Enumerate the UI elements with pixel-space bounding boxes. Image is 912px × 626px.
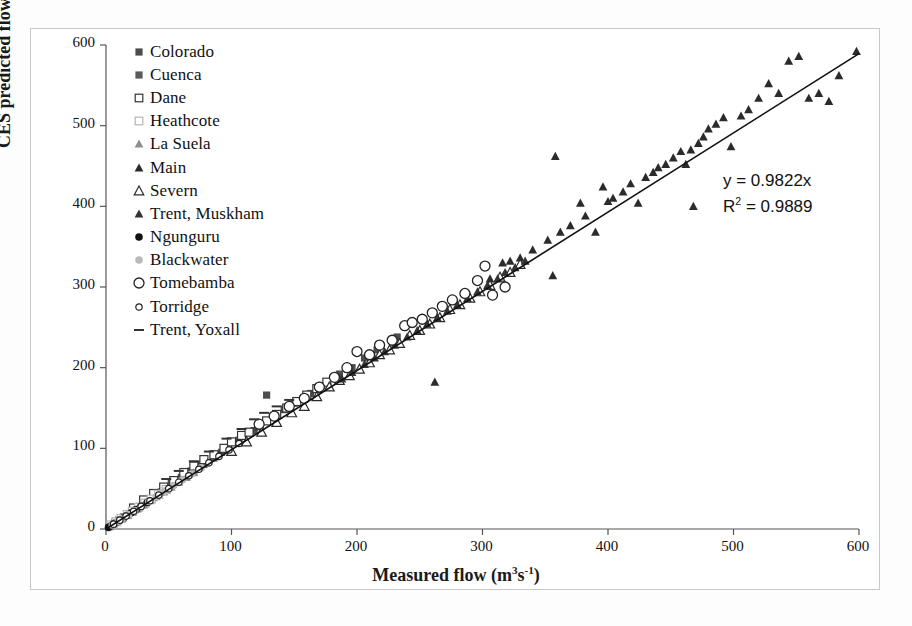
data-point (135, 117, 143, 125)
data-point (686, 145, 695, 153)
data-point (719, 113, 728, 121)
data-point (342, 363, 352, 373)
r-squared-base: R (723, 197, 735, 216)
y-tick-label: 0 (35, 518, 95, 535)
legend-item-cuenca[interactable]: Cuenca (128, 63, 264, 86)
legend-item-dane[interactable]: Dane (128, 86, 264, 109)
data-point (387, 335, 397, 345)
data-point (460, 288, 470, 298)
data-point (619, 187, 628, 195)
data-point (136, 303, 142, 309)
data-point (417, 314, 427, 324)
data-point (528, 245, 537, 253)
y-axis-title: CES predicted flow (m3 s-1) (0, 0, 15, 148)
y-tick-label: 600 (35, 34, 95, 51)
chart-legend: ColoradoCuencaDaneHeathcoteLa SuelaMainS… (128, 40, 264, 341)
x-tick-label: 100 (201, 538, 261, 555)
legend-label: Torridge (150, 297, 209, 317)
open-circle-small-icon (128, 298, 150, 316)
filled-triangle-icon (128, 159, 150, 177)
legend-label: Trent, Yoxall (150, 320, 240, 340)
data-point (263, 391, 270, 398)
data-point (794, 52, 803, 60)
data-point (352, 347, 362, 357)
data-point (641, 173, 650, 181)
data-point (654, 163, 663, 171)
data-point (581, 211, 590, 219)
legend-item-tomebamba[interactable]: Tomebamba (128, 272, 264, 295)
data-point (669, 153, 678, 161)
legend-item-severn[interactable]: Severn (128, 179, 264, 202)
regression-annotation: y = 0.9822x R2 = 0.9889 (723, 168, 813, 221)
data-point (437, 301, 447, 311)
legend-item-main[interactable]: Main (128, 156, 264, 179)
filled-triangle-icon (128, 205, 150, 223)
data-point (134, 186, 144, 195)
filled-triangle-icon (128, 135, 150, 153)
data-point (135, 209, 144, 217)
filled-square-icon (128, 43, 150, 61)
data-point (804, 94, 813, 102)
y-tick-label: 200 (35, 357, 95, 374)
open-circle-large-icon (128, 274, 150, 292)
legend-label: Main (150, 158, 186, 178)
data-point (480, 261, 490, 271)
legend-label: Ngunguru (150, 227, 220, 247)
legend-item-torridge[interactable]: Torridge (128, 295, 264, 318)
legend-label: Dane (150, 88, 186, 108)
data-point (365, 350, 375, 360)
legend-item-ngunguru[interactable]: Ngunguru (128, 226, 264, 249)
x-tick-label: 600 (828, 538, 888, 555)
data-point (548, 271, 557, 279)
equation-text: y = 0.9822x (723, 168, 813, 194)
data-point (744, 105, 753, 113)
data-point (447, 295, 457, 305)
legend-label: Tomebamba (150, 273, 235, 293)
data-point (566, 221, 575, 229)
r-squared-value: = 0.9889 (746, 197, 813, 216)
data-point (704, 124, 713, 132)
data-point (727, 142, 736, 150)
legend-item-heathcote[interactable]: Heathcote (128, 110, 264, 133)
r-squared-text: R2 = 0.9889 (723, 194, 813, 220)
data-point (135, 256, 143, 264)
data-point (488, 290, 498, 300)
data-point (676, 147, 685, 155)
legend-item-trent-muskham[interactable]: Trent, Muskham (128, 202, 264, 225)
legend-item-blackwater[interactable]: Blackwater (128, 249, 264, 272)
data-point (135, 71, 142, 78)
data-point (506, 257, 515, 265)
data-point (427, 308, 437, 318)
data-point (689, 202, 698, 210)
data-point (135, 140, 144, 148)
data-point (329, 372, 339, 382)
data-point (609, 194, 618, 202)
data-point (835, 71, 844, 79)
data-point (135, 48, 142, 55)
data-point (556, 228, 565, 236)
legend-item-trent-yoxall[interactable]: Trent, Yoxall (128, 318, 264, 341)
figure-scatter-plot: 01002003004005006000100200300400500600 C… (0, 0, 912, 626)
data-point (238, 431, 246, 439)
data-point (774, 89, 783, 97)
data-point (712, 119, 721, 127)
y-tick-label: 100 (35, 437, 95, 454)
legend-item-la-suela[interactable]: La Suela (128, 133, 264, 156)
data-point (814, 89, 823, 97)
legend-label: Trent, Muskham (150, 204, 264, 224)
data-point (498, 258, 507, 266)
open-triangle-icon (128, 182, 150, 200)
data-point (784, 57, 793, 65)
data-point (430, 378, 439, 386)
r-squared-exponent: 2 (735, 196, 741, 208)
x-tick-label: 300 (452, 538, 512, 555)
data-point (407, 317, 417, 327)
data-point (135, 94, 143, 102)
open-square-icon (128, 89, 150, 107)
data-point (852, 47, 861, 55)
data-point (284, 401, 294, 411)
y-tick-label: 300 (35, 276, 95, 293)
legend-item-colorado[interactable]: Colorado (128, 40, 264, 63)
data-point (576, 199, 585, 207)
x-tick-label: 400 (577, 538, 637, 555)
